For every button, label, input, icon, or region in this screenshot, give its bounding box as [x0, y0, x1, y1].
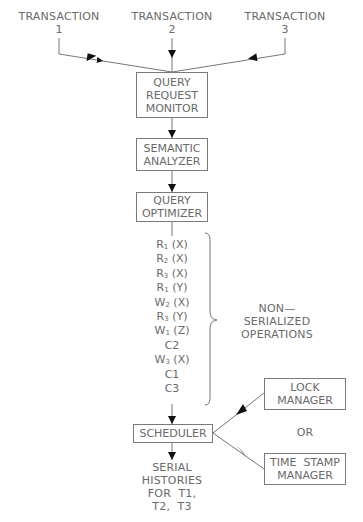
qrm-line-3: MONITOR	[146, 102, 199, 115]
nso-line-1: NON—	[232, 302, 322, 315]
output-line-2: HISTORIES	[127, 474, 217, 487]
transaction-3-number: 3	[240, 23, 330, 36]
operation-item: R1 (Y)	[140, 281, 204, 295]
output-line-3: FOR T1,	[127, 487, 217, 500]
or-label: OR	[285, 426, 325, 439]
operation-item: C1	[140, 368, 204, 382]
operation-item: R2 (X)	[140, 252, 204, 266]
query-request-monitor-box: QUERY REQUEST MONITOR	[136, 72, 208, 118]
operation-item: C2	[140, 339, 204, 353]
output-line-1: SERIAL	[127, 461, 217, 474]
transaction-2-label: TRANSACTION 2	[127, 10, 217, 36]
semantic-analyzer-box: SEMANTIC ANALYZER	[136, 138, 208, 171]
tsm-line-2: MANAGER	[277, 469, 333, 482]
non-serialized-operations-label: NON— SERIALIZED OPERATIONS	[232, 302, 322, 341]
transaction-processing-diagram: TRANSACTION 1 TRANSACTION 2 TRANSACTION …	[0, 0, 363, 522]
scheduler-label: SCHEDULER	[139, 427, 206, 440]
t1-connector	[59, 38, 172, 72]
operations-list: R1 (X) R2 (X) R3 (X) R1 (Y) W2 (X) R3 (Y…	[140, 238, 204, 396]
transaction-1-label: TRANSACTION 1	[14, 10, 104, 36]
nso-line-3: OPERATIONS	[232, 328, 322, 341]
output-line-4: T2, T3	[127, 500, 217, 513]
time-stamp-manager-box: TIME STAMP MANAGER	[264, 453, 346, 485]
scheduler-box: SCHEDULER	[133, 424, 213, 443]
transaction-3-title: TRANSACTION	[240, 10, 330, 23]
tsm-line-1: TIME STAMP	[270, 456, 340, 469]
operation-item: W3 (X)	[140, 353, 204, 367]
transaction-2-number: 2	[127, 23, 217, 36]
sa-line-1: SEMANTIC	[144, 142, 201, 155]
operation-item: R1 (X)	[140, 238, 204, 252]
transaction-2-title: TRANSACTION	[127, 10, 217, 23]
operation-item: W1 (Z)	[140, 324, 204, 338]
transaction-1-number: 1	[14, 23, 104, 36]
qo-line-2: OPTIMIZER	[142, 207, 202, 220]
operation-item: W2 (X)	[140, 296, 204, 310]
sa-line-2: ANALYZER	[144, 155, 201, 168]
serial-histories-label: SERIAL HISTORIES FOR T1, T2, T3	[127, 461, 217, 513]
lock-manager-line-2: MANAGER	[277, 394, 333, 407]
qo-line-1: QUERY	[153, 194, 190, 207]
qrm-line-2: REQUEST	[146, 89, 198, 102]
lock-manager-box: LOCK MANAGER	[264, 378, 346, 410]
lock-manager-line-1: LOCK	[290, 381, 319, 394]
operation-item: R3 (X)	[140, 267, 204, 281]
query-optimizer-box: QUERY OPTIMIZER	[136, 192, 208, 222]
t3-connector	[172, 38, 285, 72]
operation-item: C3	[140, 382, 204, 396]
nso-line-2: SERIALIZED	[232, 315, 322, 328]
transaction-1-title: TRANSACTION	[14, 10, 104, 23]
operation-item: R3 (Y)	[140, 310, 204, 324]
transaction-3-label: TRANSACTION 3	[240, 10, 330, 36]
qrm-line-1: QUERY	[153, 76, 190, 89]
